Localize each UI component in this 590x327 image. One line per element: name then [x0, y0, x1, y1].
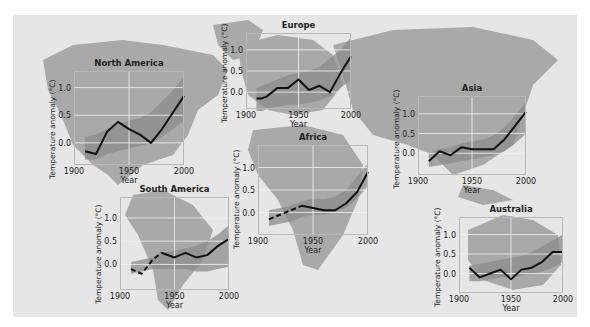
- x-tick-label: 2000: [219, 292, 239, 301]
- x-tick-label: 1900: [236, 111, 256, 120]
- plot-frame: [418, 96, 526, 175]
- y-tick-label: 0.5: [242, 186, 255, 195]
- x-tick-label: 1950: [288, 111, 308, 120]
- y-tick-label: 0.5: [58, 111, 71, 120]
- plot-frame: [258, 145, 368, 235]
- x-axis-label: Year: [121, 176, 138, 185]
- x-tick-label: 1950: [119, 167, 139, 176]
- x-axis-label: Year: [464, 186, 481, 195]
- x-axis-label: Year: [290, 120, 307, 129]
- y-tick-label: 0.0: [230, 88, 243, 97]
- x-tick-label: 1950: [501, 295, 521, 304]
- y-tick-label: 0.0: [58, 138, 71, 147]
- y-axis-label: Temperature anomaly (°C): [392, 90, 401, 189]
- x-tick-label: 1900: [449, 295, 469, 304]
- chart-title: South America: [139, 184, 209, 194]
- plot-frame: [246, 33, 351, 109]
- chart-title: Australia: [489, 204, 532, 214]
- y-tick-label: 0.0: [104, 260, 117, 269]
- y-axis-label: Temperature anomaly (°C): [220, 24, 229, 123]
- chart-title: Europe: [282, 20, 316, 30]
- y-tick-label: 0.5: [443, 250, 456, 259]
- y-axis-label: Temperature anomaly (°C): [232, 150, 241, 249]
- y-tick-label: 1.0: [242, 163, 255, 172]
- y-tick-label: 1.0: [402, 109, 415, 118]
- plot-frame: [120, 197, 229, 290]
- x-tick-label: 1900: [408, 177, 428, 186]
- y-tick-label: 0.0: [443, 269, 456, 278]
- chart-title: Africa: [299, 132, 327, 142]
- x-tick-label: 1900: [64, 167, 84, 176]
- y-axis-label: Temperature anomaly (°C): [48, 80, 57, 179]
- x-tick-label: 2000: [174, 167, 194, 176]
- x-tick-label: 1900: [248, 237, 268, 246]
- x-tick-label: 1950: [462, 177, 482, 186]
- y-tick-label: 1.0: [58, 83, 71, 92]
- y-tick-label: 1.0: [104, 213, 117, 222]
- y-tick-label: 0.5: [104, 237, 117, 246]
- y-tick-label: 1.0: [230, 45, 243, 54]
- x-tick-label: 2000: [341, 111, 361, 120]
- x-tick-label: 2000: [516, 177, 536, 186]
- y-axis-label: Temperature anomaly (°C): [433, 208, 442, 307]
- x-tick-label: 2000: [553, 295, 573, 304]
- y-tick-label: 1.0: [443, 230, 456, 239]
- x-tick-label: 1900: [110, 292, 130, 301]
- x-axis-label: Year: [166, 301, 183, 310]
- y-tick-label: 0.5: [402, 129, 415, 138]
- plot-frame: [74, 71, 184, 165]
- x-tick-label: 1950: [164, 292, 184, 301]
- y-axis-label: Temperature anomaly (°C): [94, 205, 103, 304]
- x-axis-label: Year: [503, 304, 520, 313]
- x-axis-label: Year: [305, 246, 322, 255]
- y-tick-label: 0.0: [402, 149, 415, 158]
- y-tick-label: 0.5: [230, 67, 243, 76]
- y-tick-label: 0.0: [242, 208, 255, 217]
- x-tick-label: 2000: [358, 237, 378, 246]
- chart-title: North America: [94, 58, 163, 68]
- plot-frame: [459, 217, 563, 293]
- chart-title: Asia: [462, 83, 482, 93]
- x-tick-label: 1950: [303, 237, 323, 246]
